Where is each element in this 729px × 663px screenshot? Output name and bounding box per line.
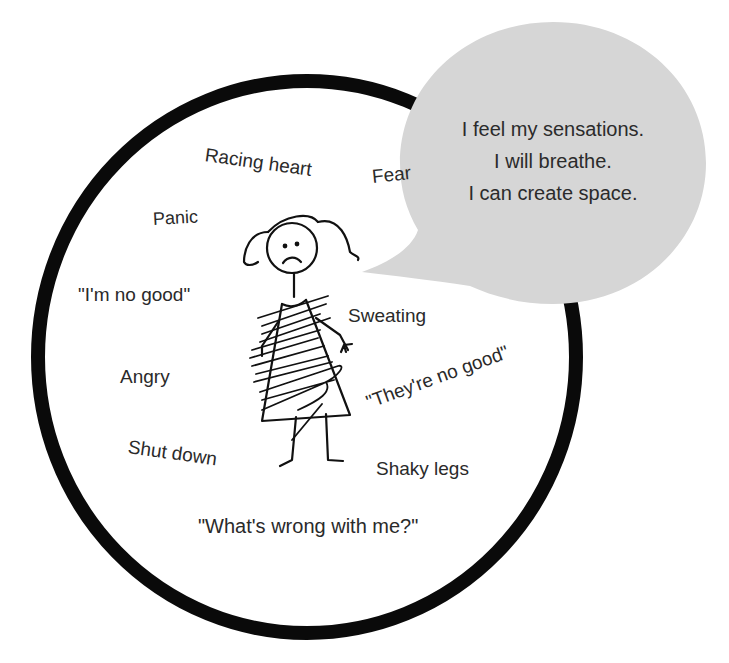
- label-fear: Fear: [371, 162, 412, 188]
- label-angry: Angry: [120, 366, 170, 388]
- bubble-line-2: I will breathe.: [400, 145, 706, 177]
- label-sweating: Sweating: [348, 305, 426, 327]
- diagram-canvas: [0, 0, 729, 663]
- label-panic: Panic: [152, 207, 198, 230]
- bubble-line-1: I feel my sensations.: [400, 113, 706, 145]
- label-im-no-good: "I'm no good": [78, 284, 190, 306]
- label-whats-wrong: "What's wrong with me?": [198, 515, 418, 538]
- bubble-affirmation: I feel my sensations. I will breathe. I …: [400, 113, 706, 209]
- label-shaky-legs: Shaky legs: [376, 458, 469, 480]
- bubble-line-3: I can create space.: [400, 177, 706, 209]
